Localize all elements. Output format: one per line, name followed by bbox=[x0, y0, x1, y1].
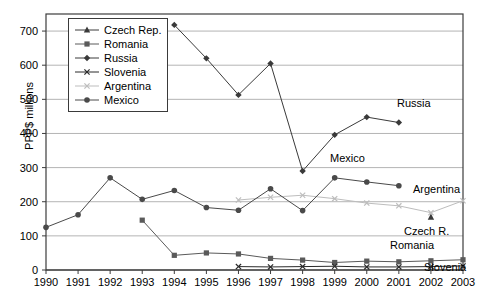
y-tick-label: 400 bbox=[4, 128, 38, 139]
legend-label: Mexico bbox=[100, 94, 139, 106]
legend-label: Argentina bbox=[100, 80, 151, 92]
y-tick-label: 100 bbox=[4, 231, 38, 242]
y-tick-label: 700 bbox=[4, 26, 38, 37]
y-tick-label: 600 bbox=[4, 60, 38, 71]
annotation-russia: Russia bbox=[397, 98, 431, 109]
annotation-czech-r-: Czech R. bbox=[404, 226, 449, 237]
y-tick-label: 200 bbox=[4, 197, 38, 208]
legend-label: Romania bbox=[100, 38, 148, 50]
annotation-slovenia: Slovenia bbox=[424, 262, 466, 273]
series-mexico bbox=[43, 175, 401, 230]
legend-marker-diamond-icon bbox=[74, 52, 100, 64]
annotation-romania: Romania bbox=[390, 240, 434, 251]
legend-label: Czech Rep. bbox=[100, 24, 161, 36]
y-tick-label: 0 bbox=[4, 265, 38, 276]
legend-item-argentina[interactable]: Argentina bbox=[74, 79, 161, 93]
x-tick-label: 2003 bbox=[443, 277, 481, 288]
legend: Czech Rep.RomaniaRussiaSloveniaArgentina… bbox=[68, 18, 168, 112]
legend-item-russia[interactable]: Russia bbox=[74, 51, 161, 65]
legend-marker-x-icon bbox=[74, 66, 100, 78]
legend-marker-triangle-icon bbox=[74, 24, 100, 36]
legend-marker-x-light-icon bbox=[74, 80, 100, 92]
legend-item-mexico[interactable]: Mexico bbox=[74, 93, 161, 107]
chart-container: PPP$ millions 0100200300400500600700 199… bbox=[0, 0, 481, 291]
legend-item-czech-rep-[interactable]: Czech Rep. bbox=[74, 23, 161, 37]
y-tick-label: 500 bbox=[4, 94, 38, 105]
legend-item-slovenia[interactable]: Slovenia bbox=[74, 65, 161, 79]
legend-label: Slovenia bbox=[100, 66, 146, 78]
legend-label: Russia bbox=[100, 52, 138, 64]
annotation-argentina: Argentina bbox=[413, 184, 460, 195]
legend-marker-square-icon bbox=[74, 38, 100, 50]
legend-marker-circle-icon bbox=[74, 94, 100, 106]
series-argentina bbox=[236, 193, 466, 216]
y-tick-label: 300 bbox=[4, 163, 38, 174]
legend-item-romania[interactable]: Romania bbox=[74, 37, 161, 51]
series-russia bbox=[171, 22, 402, 174]
annotation-mexico: Mexico bbox=[330, 153, 365, 164]
